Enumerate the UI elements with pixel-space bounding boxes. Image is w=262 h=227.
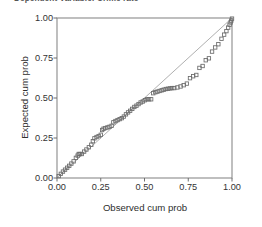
plot-area — [0, 0, 262, 227]
pp-plot-chart: Dependent Variable: Crime rate 1.00 0.75… — [0, 0, 262, 227]
